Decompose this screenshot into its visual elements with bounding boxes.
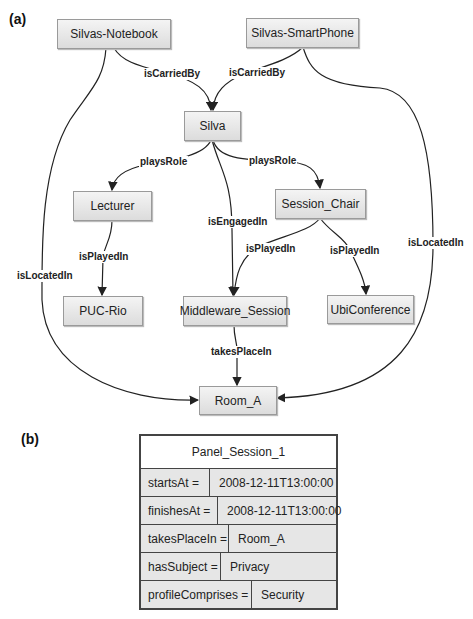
edge-label-silva-chair: playsRole [248,155,297,167]
property-value: Security [252,581,336,608]
edge-label-notebook-silva: isCarriedBy [143,68,201,80]
edge-label-smartphone-silva: isCarriedBy [228,67,286,79]
edge-lines [0,0,473,430]
node-lecturer: Lecturer [73,191,152,221]
property-key: finishesAt = [141,497,218,524]
table-row: startsAt = 2008-12-11T13:00:00 [141,469,336,497]
property-value: 2008-12-11T13:00:00 [210,469,336,496]
edge-label-notebook-room: isLocatedIn [16,270,74,282]
table-row: finishesAt = 2008-12-11T13:00:00 [141,497,336,525]
property-key: startsAt = [141,469,210,496]
edge-label-lecturer-puc: isPlayedIn [78,251,129,263]
property-value: Privacy [221,553,336,580]
edge-notebook-room [42,48,198,400]
edge-label-chair-middleware: isPlayedIn [245,243,296,255]
node-silva: Silva [184,111,241,141]
table-row: profileComprises = Security [141,581,336,608]
node-session-chair: Session_Chair [275,189,366,219]
node-ubiconference: UbiConference [327,295,414,324]
edge-smartphone-room [277,47,433,398]
instance-table: Panel_Session_1 startsAt = 2008-12-11T13… [139,434,338,610]
property-key: profileComprises = [141,581,252,608]
table-row: takesPlaceIn = Room_A [141,525,336,553]
node-room-a: Room_A [199,386,277,415]
node-puc-rio: PUC-Rio [63,296,143,326]
property-key: hasSubject = [141,553,221,580]
edge-label-middleware-room: takesPlaceIn [210,346,273,358]
table-row: hasSubject = Privacy [141,553,336,581]
edge-label-smartphone-room: isLocatedIn [407,237,465,249]
property-value: Room_A [229,525,336,552]
node-middleware-session: Middleware_Session [183,296,287,326]
edge-label-chair-ubi: isPlayedIn [329,245,380,257]
node-silvas-smartphone: Silvas-SmartPhone [246,18,359,48]
property-value: 2008-12-11T13:00:00 [218,497,342,524]
instance-title: Panel_Session_1 [141,436,336,469]
node-silvas-notebook: Silvas-Notebook [57,19,171,49]
edge-chair-middleware [234,218,320,295]
panel-b-label: (b) [21,431,39,447]
edge-label-silva-middleware: isEngagedIn [207,216,268,228]
edge-label-silva-lecturer: playsRole [139,156,188,168]
property-key: takesPlaceIn = [141,525,229,552]
